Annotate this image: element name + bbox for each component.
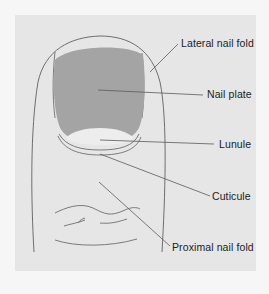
label-nail-plate: Nail plate bbox=[207, 88, 252, 100]
skin-crease-1 bbox=[55, 205, 140, 214]
leader-lateral-nail-fold bbox=[150, 44, 178, 72]
label-lunule: Lunule bbox=[219, 138, 251, 150]
label-cuticule: Cuticule bbox=[212, 190, 251, 202]
leader-cuticule bbox=[100, 154, 210, 196]
skin-crease-3 bbox=[100, 219, 127, 223]
nail-anatomy-figure: Lateral nail fold Nail plate Lunule Cuti… bbox=[0, 0, 269, 294]
label-proximal-nail-fold: Proximal nail fold bbox=[172, 241, 254, 253]
skin-crease-4 bbox=[55, 239, 137, 245]
skin-crease-2a bbox=[64, 220, 85, 226]
nail-plate-shape bbox=[54, 48, 145, 142]
label-lateral-nail-fold: Lateral nail fold bbox=[181, 37, 254, 49]
